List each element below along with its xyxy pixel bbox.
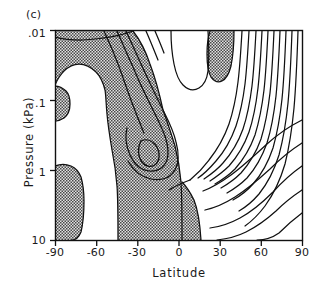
figure-panel-c: (c) Pressure (kPa) Latitude .01 .1 1 10 … bbox=[0, 0, 320, 291]
contour-plot-canvas bbox=[0, 0, 320, 291]
shaded-region-lower-left bbox=[55, 165, 84, 241]
y-axis-ticks bbox=[50, 31, 56, 241]
x-axis-ticks bbox=[56, 241, 303, 247]
